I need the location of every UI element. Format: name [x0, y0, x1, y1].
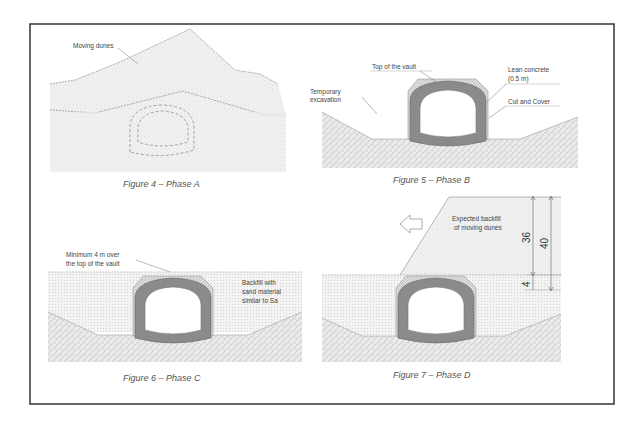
ground-area	[50, 112, 286, 172]
dimension-36: 36	[521, 231, 532, 243]
temporary-excavation-label-1: Temporary	[310, 88, 341, 96]
top-of-vault-label: Top of the vault	[372, 63, 416, 71]
backfill-label-2: sand material	[242, 288, 282, 295]
temporary-excavation-label-2: excavation	[310, 96, 341, 103]
lean-concrete-label: Lean concrete	[508, 66, 550, 73]
minimum-cover-label-1: Minimum 4 m over	[66, 251, 120, 258]
lean-concrete-thickness-label: (0.5 m)	[508, 75, 529, 83]
backfill-label-1: Backfill with	[242, 279, 276, 286]
expected-backfill-label-2: of moving dunes	[454, 224, 502, 232]
minimum-cover-label-2: the top of the vault	[66, 260, 120, 268]
expected-backfill-label-1: Expected backfill	[452, 215, 501, 223]
dimension-4: 4	[521, 281, 532, 287]
figure-6-caption: Figure 6 – Phase C	[123, 373, 201, 383]
figure-5-caption: Figure 5 – Phase B	[393, 175, 470, 185]
cut-and-cover-label: Cut and Cover	[508, 98, 551, 105]
backfill-label-3: similar to Sa	[242, 297, 278, 304]
dimension-40: 40	[539, 237, 550, 249]
figure-4-caption: Figure 4 – Phase A	[123, 179, 200, 189]
tunnel-section	[133, 276, 213, 343]
tunnel-section	[396, 276, 476, 343]
figure-7-caption: Figure 7 – Phase D	[393, 370, 471, 380]
tunnel-construction-phases-diagram: Moving dunes Figure 4 – Phase A Top of t…	[0, 0, 644, 433]
tunnel-section	[408, 79, 488, 146]
moving-dunes-label: Moving dunes	[73, 42, 114, 50]
